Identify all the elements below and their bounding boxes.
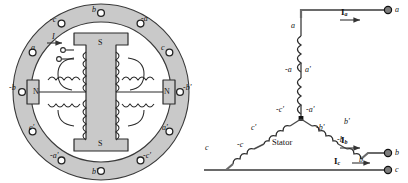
terminal-label-c: c <box>395 166 399 174</box>
phase-a-coil-label-ap: a' <box>305 66 311 74</box>
rotor-pole-label-left: N <box>33 88 39 96</box>
figure-canvas: S N N S I b -a c -b' a' -c' b' -a' c' -b… <box>0 0 408 183</box>
stator-slot-label-na: -a <box>141 15 148 23</box>
rotor-pole-label-bottom: S <box>98 140 102 148</box>
stator-slot-label-nc: -c <box>50 16 56 24</box>
phase-b-coil-label-b: b <box>359 156 363 164</box>
field-terminal-dot <box>61 48 66 53</box>
stator-slot-label-b: b <box>92 6 96 14</box>
stator-slot <box>19 89 26 96</box>
stator-slot <box>98 168 105 175</box>
stator-slot-label-nbp: -b' <box>183 84 191 92</box>
current-subscript-a: a <box>345 11 348 17</box>
phase-c-wire-1 <box>290 119 301 126</box>
stator-slot <box>166 49 173 56</box>
terminal-c[interactable] <box>384 166 391 173</box>
current-label-c: Ic <box>334 157 340 167</box>
stator-slot-label-nap: -a' <box>50 152 58 160</box>
stator-slot-label-ncp: -c' <box>143 152 151 160</box>
terminal-b[interactable] <box>384 149 391 156</box>
phase-b-coil-label-bp: b' <box>344 118 350 126</box>
terminal-label-a: a <box>395 6 399 14</box>
stator-slot-label-c: c <box>161 44 165 52</box>
stator-center-label: Stator <box>272 138 292 146</box>
phase-b-coil-label-nbp: -b' <box>316 124 324 132</box>
stator-slot-label-cp: c' <box>29 124 34 132</box>
current-subscript-c: c <box>338 160 341 166</box>
phase-c-coil-label-ncp: -c' <box>276 106 284 114</box>
phase-c-wire-2 <box>254 144 264 149</box>
stator-slot-label-a: a <box>31 44 35 52</box>
field-terminal-dot <box>57 57 62 62</box>
phase-a-coil-label-na: -a <box>285 66 292 74</box>
phase-b-wire-1 <box>301 119 312 126</box>
rotor-pole-label-right: N <box>164 88 170 96</box>
phase-c-coil-label-nc: -c <box>237 141 243 149</box>
stator-slot <box>58 20 65 27</box>
terminal-label-b: b <box>395 149 399 157</box>
machine-cross-section <box>13 4 189 180</box>
figure-svg <box>0 0 408 183</box>
phase-c-coil-2 <box>233 149 254 164</box>
stator-slot-label-nb: -b <box>9 84 16 92</box>
current-subscript-b: b <box>345 139 348 145</box>
stator-slot-label-ap: a' <box>162 124 168 132</box>
phase-a-coil-label-nap: -a' <box>306 106 314 114</box>
phase-a-node-label: a <box>291 22 295 30</box>
field-current-label: I <box>52 33 55 41</box>
wye-winding-schematic <box>204 6 392 173</box>
stator-slot <box>58 157 65 164</box>
stator-slot <box>98 10 105 17</box>
phase-c-coil-label-cp: c' <box>251 124 256 132</box>
current-label-a: Ia <box>341 8 348 18</box>
stator-slot-label-bp: b' <box>92 168 98 176</box>
current-label-b: Ib <box>341 136 348 146</box>
phase-c-coil-label-c: c <box>205 144 209 152</box>
terminal-a[interactable] <box>384 6 391 13</box>
rotor-pole-label-top: S <box>98 39 102 47</box>
